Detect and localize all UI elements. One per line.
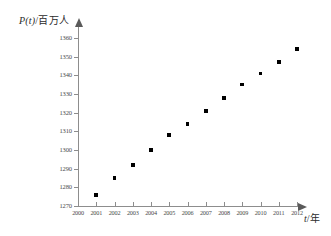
y-tick-label: 1350 — [59, 53, 72, 60]
y-axis-title-unit: /百万人 — [35, 15, 69, 26]
x-axis-line — [78, 206, 300, 207]
data-point — [94, 193, 98, 197]
x-tick-label: 2009 — [232, 209, 252, 216]
y-tick-mark — [74, 187, 79, 188]
x-tick-mark — [188, 202, 189, 207]
y-tick-label: 1290 — [59, 165, 72, 172]
data-point — [277, 60, 281, 64]
y-tick-label: 1310 — [59, 127, 72, 134]
x-tick-mark — [279, 202, 280, 207]
y-tick-label: 1340 — [59, 71, 72, 78]
population-scatter-chart: P(t)/百万人 t/年 127012801290130013101320133… — [0, 0, 331, 236]
x-tick-label: 2011 — [269, 209, 289, 216]
data-point — [259, 72, 263, 76]
x-tick-mark — [169, 202, 170, 207]
y-tick-label: 1270 — [59, 202, 72, 209]
data-point — [131, 163, 135, 167]
data-point — [113, 176, 117, 180]
x-tick-label: 2002 — [105, 209, 125, 216]
x-tick-label: 2004 — [141, 209, 161, 216]
y-tick-mark — [74, 38, 79, 39]
x-tick-label: 2005 — [159, 209, 179, 216]
x-tick-mark — [242, 202, 243, 207]
x-tick-label: 2000 — [68, 209, 88, 216]
x-tick-label: 2010 — [251, 209, 271, 216]
y-tick-mark — [74, 94, 79, 95]
data-point — [240, 83, 244, 87]
x-tick-mark — [206, 202, 207, 207]
y-tick-label: 1280 — [59, 183, 72, 190]
x-tick-label: 2003 — [123, 209, 143, 216]
y-tick-mark — [74, 169, 79, 170]
x-tick-label: 2008 — [214, 209, 234, 216]
y-tick-label: 1300 — [59, 146, 72, 153]
data-point — [167, 133, 171, 137]
x-tick-mark — [297, 202, 298, 207]
y-tick-mark — [74, 150, 79, 151]
y-axis-title: P(t)/百万人 — [19, 12, 69, 27]
y-tick-label: 1360 — [59, 34, 72, 41]
x-tick-mark — [115, 202, 116, 207]
y-tick-label: 1320 — [59, 109, 72, 116]
data-point — [295, 47, 299, 51]
y-tick-mark — [74, 75, 79, 76]
y-tick-mark — [74, 57, 79, 58]
x-tick-mark — [78, 202, 79, 207]
y-tick-mark — [74, 113, 79, 114]
data-point — [204, 109, 208, 113]
x-tick-mark — [151, 202, 152, 207]
data-point — [186, 122, 190, 126]
y-axis-arrow-icon — [75, 18, 83, 27]
x-axis-title-unit: /年 — [307, 213, 320, 224]
x-tick-mark — [96, 202, 97, 207]
y-axis-title-symbol: P(t) — [19, 15, 35, 26]
x-tick-label: 2006 — [178, 209, 198, 216]
y-tick-mark — [74, 131, 79, 132]
x-tick-label: 2001 — [86, 209, 106, 216]
data-point — [222, 96, 226, 100]
y-axis-line — [78, 26, 79, 207]
x-tick-mark — [261, 202, 262, 207]
x-tick-label: 2012 — [287, 209, 307, 216]
x-tick-mark — [224, 202, 225, 207]
x-tick-mark — [133, 202, 134, 207]
y-tick-label: 1330 — [59, 90, 72, 97]
x-tick-label: 2007 — [196, 209, 216, 216]
data-point — [149, 148, 153, 152]
